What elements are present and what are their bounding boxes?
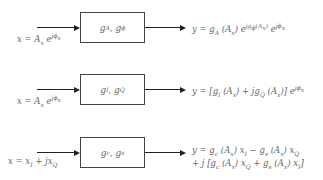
input-arrow-2	[37, 89, 76, 90]
block-box-gc-gs: gc, gs	[80, 137, 145, 168]
input-label-3: x = xI + jxQ	[8, 156, 57, 168]
output-arrow-3	[145, 152, 181, 153]
output-arrow-2	[145, 89, 181, 90]
block-box-gA-gphi: gA, gϕ	[80, 12, 145, 43]
output-label-2: y = [gI (Ax) + jgQ (Ax)] ejϕx	[192, 84, 304, 98]
input-label-2: x = Ax ejϕx	[17, 94, 61, 108]
output-label-3-line2: + j [gc (Ax) xQ + gs (Ax) xI]	[192, 158, 304, 170]
input-arrow-3	[37, 152, 76, 153]
output-label-1: y = gA (Ax) ejgϕ(Ax) ejϕx	[192, 22, 285, 36]
input-label-1: x = Ax ejϕx	[17, 32, 61, 46]
arrowhead-icon	[180, 25, 186, 31]
output-label-3-line1: y = gc (Ax) xI − gs (Ax) xQ	[192, 145, 299, 157]
block-box-gI-gQ: gI, gQ	[80, 74, 145, 105]
output-arrow-1	[145, 27, 181, 28]
arrowhead-icon	[180, 150, 186, 156]
arrowhead-icon	[180, 87, 186, 93]
input-arrow-1	[37, 27, 76, 28]
